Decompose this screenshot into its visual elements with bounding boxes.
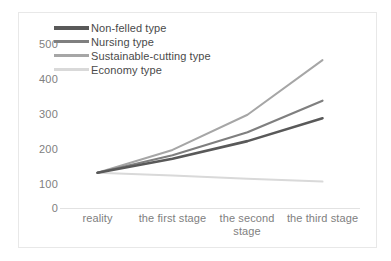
legend-item-sustainable-cutting-type: Sustainable-cutting type xyxy=(54,49,269,62)
y-tick-label-0: 0 xyxy=(20,203,58,214)
legend-label: Nursing type xyxy=(91,36,154,48)
x-tick-label-the-third-stage: the third stage xyxy=(285,212,360,225)
legend-swatch-icon xyxy=(54,68,89,71)
legend-label: Sustainable-cutting type xyxy=(91,50,211,62)
legend-label: Economy type xyxy=(91,64,162,76)
legend-label: Non-felled type xyxy=(91,22,167,34)
legend-swatch-icon xyxy=(54,26,89,30)
x-tick-label-the-second-stage: the second stage xyxy=(211,212,283,238)
legend: Non-felled type Nursing type Sustainable… xyxy=(54,21,269,77)
legend-swatch-icon xyxy=(54,40,89,43)
x-tick-label-reality: reality xyxy=(60,212,135,225)
y-tick-label-500: 500 xyxy=(20,39,58,50)
y-tick-label-400: 400 xyxy=(20,74,58,85)
line-chart: 500 400 300 200 100 0 Non-felled type Nu… xyxy=(0,0,391,261)
series-line-sustainable-cutting-type xyxy=(98,60,323,173)
legend-item-nursing-type: Nursing type xyxy=(54,35,269,48)
legend-swatch-icon xyxy=(54,54,89,57)
y-tick-label-100: 100 xyxy=(20,179,58,190)
legend-item-non-felled-type: Non-felled type xyxy=(54,21,269,34)
series-line-economy-type xyxy=(98,173,323,182)
x-tick-label-the-first-stage: the first stage xyxy=(135,212,210,225)
y-tick-label-200: 200 xyxy=(20,144,58,155)
y-tick-label-300: 300 xyxy=(20,109,58,120)
legend-item-economy-type: Economy type xyxy=(54,63,269,76)
x-axis: reality the first stage the second stage… xyxy=(60,212,360,246)
